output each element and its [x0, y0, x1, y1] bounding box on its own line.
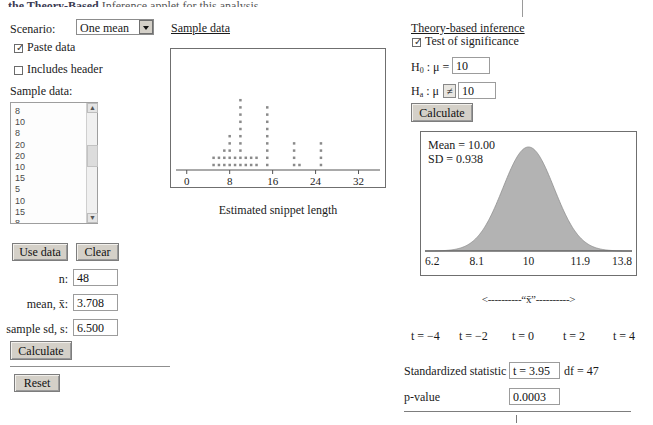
standardized-statistic-label: Standardized statistic — [404, 364, 506, 379]
normal-curve-readout: Mean = 10.00 SD = 0.938 — [428, 138, 495, 166]
alt-hypothesis-input[interactable]: 10 — [458, 82, 496, 99]
h0-suffix: : μ = — [424, 60, 450, 74]
scenario-label: Scenario: — [10, 22, 55, 37]
dotplot-svg: 08162432 — [171, 49, 385, 187]
standardized-statistic-value[interactable]: t = 3.95 — [509, 362, 560, 379]
ha-prefix: H — [411, 84, 420, 98]
column-divider-rule — [522, 0, 523, 17]
alt-hypothesis-operator-select[interactable]: ≠ — [443, 84, 456, 98]
sample-sd-input[interactable]: 6.500 — [73, 319, 118, 336]
svg-text:0: 0 — [184, 175, 190, 187]
alt-hypothesis-label: Ha : μ — [411, 84, 439, 99]
sample-data-field-label: Sample data: — [10, 84, 72, 99]
t-scale-tick-row: t = −4t = −2t = 0t = 2t = 4 — [411, 329, 646, 343]
svg-text:11.9: 11.9 — [570, 255, 590, 267]
p-value-value[interactable]: 0.0003 — [509, 388, 560, 405]
test-of-significance-label: Test of significance — [425, 34, 519, 49]
sample-dotplot-chart: 08162432 — [170, 48, 386, 188]
dotplot-xaxis-label: Estimated snippet length — [170, 203, 386, 218]
svg-text:8: 8 — [227, 175, 233, 187]
paste-data-label: Paste data — [27, 40, 75, 55]
t-scale-tick: t = 0 — [512, 329, 534, 344]
null-hypothesis-input[interactable]: 10 — [452, 57, 490, 74]
test-of-significance-checkbox[interactable]: ✓ — [412, 38, 421, 47]
h0-prefix: H — [411, 60, 420, 74]
t-scale-tick: t = −2 — [459, 329, 488, 344]
sample-data-textarea[interactable]: 8 10 8 20 20 10 15 5 10 15 8 — [10, 102, 98, 224]
calculate-button-right[interactable]: Calculate — [411, 103, 473, 122]
t-scale-tick: t = 2 — [563, 329, 585, 344]
degrees-of-freedom-label: df = 47 — [564, 364, 599, 379]
svg-text:10: 10 — [523, 255, 535, 267]
page-heading-bold: the Theory-Based — [8, 0, 99, 7]
svg-text:13.8: 13.8 — [612, 255, 632, 267]
sample-sd-label: sample sd, s: — [0, 322, 68, 337]
scrollbar-thumb[interactable] — [87, 145, 98, 167]
chevron-down-icon[interactable] — [139, 20, 153, 34]
checkmark-icon: ✓ — [16, 43, 24, 53]
ha-suffix: : μ — [423, 84, 439, 98]
page-heading-light: Inference applet for this analysis. — [99, 0, 262, 7]
sample-data-text: 8 10 8 20 20 10 15 5 10 15 8 — [15, 106, 25, 224]
paste-data-checkbox[interactable]: ✓ — [14, 44, 23, 53]
right-panel-divider — [404, 411, 631, 412]
checkmark-icon: ✓ — [414, 37, 422, 47]
left-panel-divider — [10, 366, 170, 367]
svg-text:24: 24 — [310, 175, 322, 187]
svg-text:6.2: 6.2 — [425, 255, 440, 267]
normal-curve-sd-readout: SD = 0.938 — [428, 152, 495, 166]
page-heading-cutoff: the Theory-Based Inference applet for th… — [8, 0, 428, 7]
p-value-label: p-value — [404, 390, 440, 405]
normal-curve-mean-readout: Mean = 10.00 — [428, 138, 495, 152]
null-hypothesis-label: H0 : μ = — [411, 60, 449, 75]
scroll-down-arrow-icon[interactable]: ▼ — [87, 213, 98, 223]
t-scale-tick: t = 4 — [613, 329, 635, 344]
t-scale-tick: t = −4 — [411, 329, 440, 344]
xbar-axis-arrow-label: <----------“x̄”----------> — [420, 293, 637, 305]
clear-button[interactable]: Clear — [76, 243, 119, 261]
textarea-scrollbar[interactable]: ▲ ▼ — [86, 103, 97, 223]
n-label: n: — [0, 272, 68, 287]
mean-input[interactable]: 3.708 — [73, 294, 118, 311]
svg-text:16: 16 — [267, 175, 279, 187]
use-data-button[interactable]: Use data — [12, 243, 68, 261]
reset-button[interactable]: Reset — [14, 374, 60, 392]
sample-data-heading: Sample data — [171, 21, 230, 36]
text-caret — [516, 415, 517, 423]
scroll-up-arrow-icon[interactable]: ▲ — [87, 103, 98, 113]
mean-label: mean, x̄: — [0, 297, 68, 312]
n-input[interactable]: 48 — [73, 269, 118, 286]
includes-header-checkbox[interactable] — [14, 66, 23, 75]
svg-text:32: 32 — [353, 175, 364, 187]
svg-text:8.1: 8.1 — [470, 255, 485, 267]
includes-header-label: Includes header — [27, 62, 103, 77]
calculate-button-left[interactable]: Calculate — [10, 341, 72, 360]
